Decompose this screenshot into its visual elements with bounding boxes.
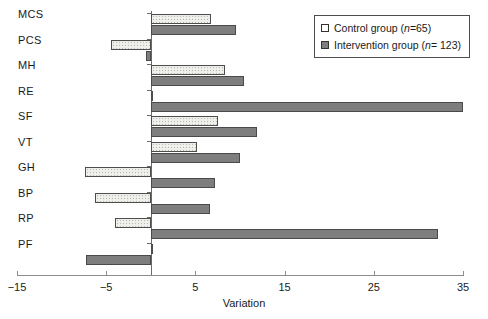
- x-tick-label-25: 25: [354, 281, 394, 293]
- bar-pf-control: [151, 244, 154, 254]
- bar-re-control: [151, 91, 153, 101]
- x-tick-5: [195, 271, 196, 276]
- category-label-mcs: MCS: [18, 8, 43, 20]
- bar-pf-intervention: [86, 255, 151, 265]
- bar-vt-intervention: [151, 153, 240, 163]
- x-tick--15: [17, 271, 18, 276]
- bar-sf-control: [151, 116, 218, 126]
- x-tick-label--15: −15: [0, 281, 37, 293]
- legend-swatch-control-icon: [321, 24, 329, 32]
- bar-pcs-intervention: [146, 51, 150, 61]
- legend-label-intervention: Intervention group (n= 123): [334, 38, 461, 52]
- category-label-rp: RP: [18, 212, 34, 224]
- bar-mcs-intervention: [151, 25, 237, 35]
- legend-item-control: Control group (n=65): [321, 21, 461, 35]
- bar-mh-control: [151, 65, 225, 75]
- category-label-bp: BP: [18, 187, 33, 199]
- x-tick-15: [285, 271, 286, 276]
- category-label-vt: VT: [18, 136, 33, 148]
- x-tick-label--5: −5: [86, 281, 126, 293]
- x-tick-label-35: 35: [443, 281, 483, 293]
- x-tick--5: [106, 271, 107, 276]
- bar-sf-intervention: [151, 127, 257, 137]
- category-label-gh: GH: [18, 161, 35, 173]
- bar-mcs-control: [151, 14, 212, 24]
- x-tick-label-5: 5: [175, 281, 215, 293]
- x-axis-line: [17, 275, 463, 276]
- bar-bp-intervention: [151, 204, 210, 214]
- bar-re-intervention: [151, 102, 463, 112]
- category-label-mh: MH: [18, 59, 36, 71]
- bar-pcs-control: [111, 40, 151, 50]
- category-label-sf: SF: [18, 110, 33, 122]
- bar-mh-intervention: [151, 76, 245, 86]
- x-tick-35: [463, 271, 464, 276]
- bar-vt-control: [151, 142, 197, 152]
- category-label-pf: PF: [18, 238, 33, 250]
- bar-gh-intervention: [151, 178, 215, 188]
- x-axis-title: Variation: [0, 297, 488, 309]
- category-label-pcs: PCS: [18, 34, 42, 46]
- bar-rp-control: [115, 218, 151, 228]
- legend-swatch-intervention-icon: [321, 41, 329, 49]
- bar-rp-intervention: [151, 229, 438, 239]
- x-tick-25: [374, 271, 375, 276]
- bar-bp-control: [95, 193, 151, 203]
- legend-label-control: Control group (n=65): [334, 21, 431, 35]
- x-tick-label-15: 15: [265, 281, 305, 293]
- chart-legend: Control group (n=65) Intervention group …: [314, 15, 470, 58]
- chart-page: Variation MCSPCSMHRESFVTGHBPRPPF−15−5515…: [0, 0, 488, 319]
- legend-item-intervention: Intervention group (n= 123): [321, 38, 461, 52]
- category-label-re: RE: [18, 85, 34, 97]
- bar-gh-control: [85, 167, 151, 177]
